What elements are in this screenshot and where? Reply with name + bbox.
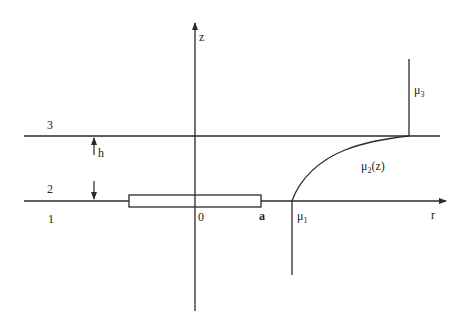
region-2-label: 2 bbox=[47, 182, 53, 196]
r-axis-label: r bbox=[431, 208, 435, 222]
z-axis-label: z bbox=[199, 30, 204, 44]
region-3-label: 3 bbox=[47, 118, 53, 132]
origin-label: 0 bbox=[198, 210, 204, 224]
region-1-label: 1 bbox=[48, 212, 54, 226]
mu1-label: μ1 bbox=[297, 209, 307, 225]
mu2-label: μ2(z) bbox=[361, 159, 385, 175]
h-label: h bbox=[98, 146, 104, 160]
mu3-label: μ3 bbox=[414, 83, 424, 99]
electrode-end-label: a bbox=[259, 209, 265, 223]
diagram-canvas: z r 0 a 3 2 1 h μ1 μ2(z) μ3 bbox=[0, 0, 468, 327]
mu2-boundary-curve bbox=[292, 136, 409, 201]
